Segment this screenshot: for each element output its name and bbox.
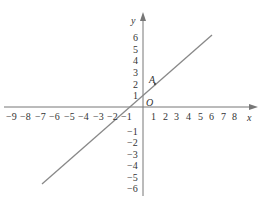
point-a-label: A	[148, 74, 156, 85]
svg-text:−3: −3	[93, 111, 104, 122]
svg-text:−7: −7	[35, 111, 46, 122]
svg-text:4: 4	[186, 111, 191, 122]
svg-text:−6: −6	[49, 111, 60, 122]
svg-text:5: 5	[198, 111, 203, 122]
svg-text:−2: −2	[127, 137, 138, 148]
x-axis-arrow-icon	[249, 104, 258, 110]
svg-text:2: 2	[163, 111, 168, 122]
x-ticks-negative: −9 −8 −7 −6 −5 −4 −3 −2 −1	[6, 111, 132, 122]
svg-text:−4: −4	[127, 160, 138, 171]
svg-text:−2: −2	[107, 111, 118, 122]
svg-text:6: 6	[133, 32, 138, 43]
svg-text:3: 3	[133, 67, 138, 78]
y-axis-label: y	[130, 15, 136, 26]
y-ticks-negative: −1 −2 −3 −4 −5 −6	[127, 126, 138, 194]
svg-text:−3: −3	[127, 149, 138, 160]
svg-text:−1: −1	[121, 111, 132, 122]
svg-text:−4: −4	[78, 111, 89, 122]
svg-text:1: 1	[133, 90, 138, 101]
origin-label: O	[146, 97, 153, 108]
svg-text:−1: −1	[127, 126, 138, 137]
svg-text:6: 6	[209, 111, 214, 122]
svg-text:−9: −9	[6, 111, 17, 122]
svg-text:3: 3	[174, 111, 179, 122]
svg-text:4: 4	[133, 55, 138, 66]
svg-text:7: 7	[221, 111, 226, 122]
svg-text:5: 5	[133, 44, 138, 55]
svg-text:−6: −6	[127, 183, 138, 194]
coordinate-plane: x y O A −9 −8 −7 −6 −5 −4 −3 −2 −1 1 2 3…	[0, 0, 267, 201]
svg-text:−5: −5	[64, 111, 75, 122]
x-ticks-positive: 1 2 3 4 5 6 7 8	[151, 111, 237, 122]
svg-text:8: 8	[232, 111, 237, 122]
svg-text:−8: −8	[20, 111, 31, 122]
svg-text:1: 1	[151, 111, 156, 122]
x-axis-label: x	[246, 112, 252, 123]
svg-text:−5: −5	[127, 172, 138, 183]
y-axis-arrow-icon	[140, 12, 146, 21]
y-ticks-positive: 1 2 3 4 5 6	[133, 32, 138, 101]
svg-text:2: 2	[133, 79, 138, 90]
